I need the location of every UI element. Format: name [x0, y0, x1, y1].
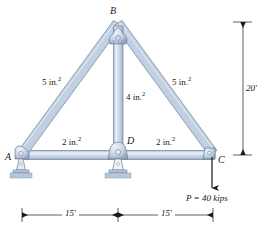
dimension-label-right: 15'	[158, 209, 175, 218]
dimension-label-vertical: 20'	[246, 84, 257, 93]
member-BD	[114, 26, 124, 154]
dimension-horizontal	[22, 208, 213, 222]
dimension-label-left: 15'	[62, 209, 79, 218]
area-label-BD: 4 in.2	[126, 91, 145, 102]
node-label-B: B	[110, 6, 116, 16]
area-label-DC: 2 in.2	[156, 136, 175, 147]
node-label-C: C	[218, 155, 225, 165]
joint-D-support	[105, 142, 131, 178]
node-label-D: D	[127, 136, 134, 146]
area-label-AD: 2 in.2	[62, 136, 81, 147]
joint-C	[203, 148, 215, 159]
load-label: P = 40 kips	[186, 194, 228, 203]
node-label-A: A	[5, 152, 11, 162]
area-label-AB: 5 in.2	[42, 76, 61, 87]
area-label-BC: 5 in.2	[172, 76, 191, 87]
